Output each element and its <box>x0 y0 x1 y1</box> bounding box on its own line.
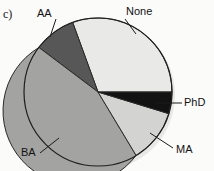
pie-chart-figure: c) None AA BA MA PhD <box>0 0 214 171</box>
pie-label-aa: AA <box>37 8 52 19</box>
panel-label: c) <box>3 8 12 20</box>
pie-label-ba: BA <box>21 147 36 158</box>
pie-label-ma: MA <box>176 144 193 155</box>
pie-label-none: None <box>126 6 152 17</box>
pie-label-phd: PhD <box>184 97 205 108</box>
